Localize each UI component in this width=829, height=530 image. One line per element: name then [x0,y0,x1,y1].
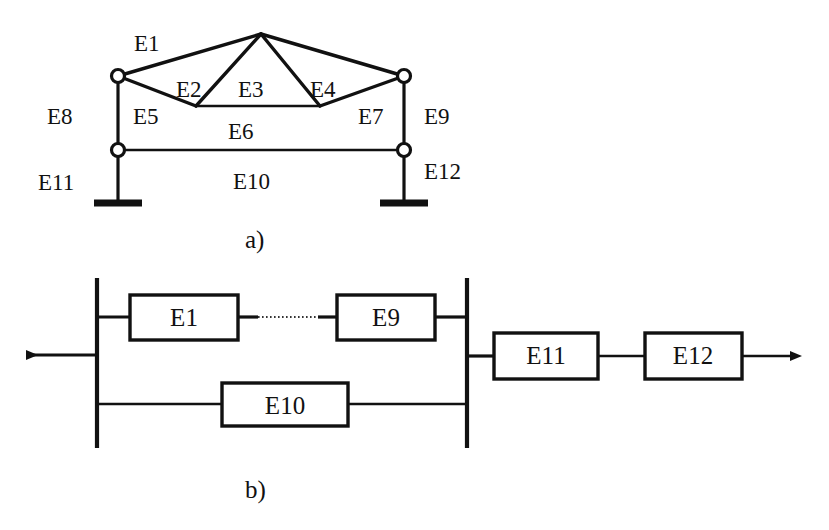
panel-a-truss: E1 E2 E3 E4 E5 E6 E7 E8 E9 E10 E11 E12 a… [38,31,461,254]
label-e7: E7 [358,104,384,129]
label-e2: E2 [176,77,202,102]
label-e5: E5 [133,104,159,129]
block-e12-label: E12 [673,342,713,369]
label-e11: E11 [38,170,74,195]
member-top-right-rafter [261,34,404,76]
pin-joint-mid-right [398,144,411,157]
block-e9-label: E9 [372,304,400,331]
caption-panel-a: a) [245,226,264,254]
label-e6: E6 [228,119,254,144]
figure-svg: E1 E2 E3 E4 E5 E6 E7 E8 E9 E10 E11 E12 a… [0,0,829,530]
label-e9: E9 [424,104,450,129]
pin-joint-top-left [112,70,125,83]
pin-joint-mid-left [112,144,125,157]
pin-joint-top-right [398,70,411,83]
label-e3: E3 [238,77,264,102]
caption-panel-b: b) [245,476,266,504]
block-e1-label: E1 [170,304,198,331]
label-e1: E1 [134,31,160,56]
block-e11-label: E11 [526,342,565,369]
label-e10: E10 [233,169,270,194]
label-e8: E8 [47,104,73,129]
label-e4: E4 [310,77,336,102]
block-e10-label: E10 [265,392,305,419]
panel-b-reliability-block-diagram: E1 E9 E10 E11 E12 b) [26,278,790,504]
label-e12: E12 [424,159,461,184]
figure-container: E1 E2 E3 E4 E5 E6 E7 E8 E9 E10 E11 E12 a… [0,0,829,530]
